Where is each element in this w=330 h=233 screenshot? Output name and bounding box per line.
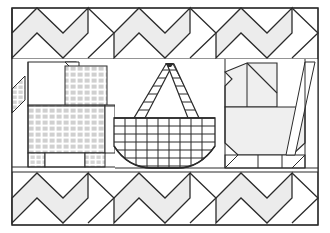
center-panel <box>12 59 318 175</box>
brick-foot-left <box>28 153 45 167</box>
quilt-pattern-figure <box>0 0 330 233</box>
brick-foot-right <box>85 153 105 167</box>
basket-section <box>110 59 220 175</box>
pot-base-strip <box>225 155 305 168</box>
white-foot-middle <box>45 153 85 167</box>
large-brick-patch <box>28 105 105 153</box>
left-brick-section <box>12 59 115 172</box>
quilt-diagram-canvas <box>0 0 330 233</box>
small-brick-patch-top <box>65 66 107 106</box>
pot-section <box>218 59 318 172</box>
